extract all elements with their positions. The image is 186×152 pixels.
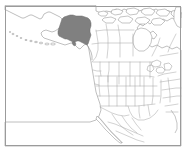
map-figure: [0, 0, 186, 152]
north-america-map[interactable]: [0, 0, 186, 152]
map-frame: [0, 0, 186, 152]
